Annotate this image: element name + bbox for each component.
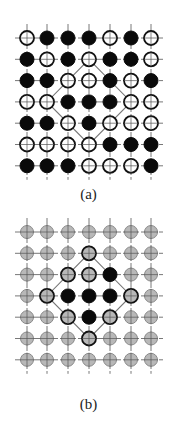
lattice-site-filled bbox=[144, 159, 158, 173]
lattice-site-filled bbox=[82, 310, 96, 324]
lattice-site-filled bbox=[20, 74, 34, 88]
panel-b-label: (b) bbox=[0, 396, 177, 413]
lattice-site-filled bbox=[40, 116, 54, 130]
lattice-site-filled bbox=[61, 31, 75, 45]
panel-a-label: (a) bbox=[0, 186, 177, 203]
lattice-site-filled bbox=[61, 289, 75, 303]
lattice-site-filled bbox=[103, 268, 117, 282]
lattice-site-filled bbox=[103, 138, 117, 152]
panel-b-lattice bbox=[15, 218, 163, 374]
lattice-site-filled bbox=[124, 31, 138, 45]
lattice-site-filled bbox=[144, 138, 158, 152]
lattice-site-filled bbox=[20, 52, 34, 66]
lattice-site-filled bbox=[20, 159, 34, 173]
lattice-site-filled bbox=[82, 116, 96, 130]
lattice-site-filled bbox=[61, 159, 75, 173]
lattice-site-filled bbox=[103, 52, 117, 66]
lattice-site-filled bbox=[40, 31, 54, 45]
lattice-site-filled bbox=[144, 74, 158, 88]
lattice-diagram bbox=[0, 0, 177, 425]
panel-a-lattice bbox=[15, 24, 163, 180]
lattice-site-filled bbox=[103, 74, 117, 88]
lattice-site-filled bbox=[103, 95, 117, 109]
lattice-site-filled bbox=[82, 95, 96, 109]
lattice-site-filled bbox=[40, 74, 54, 88]
lattice-site-filled bbox=[61, 52, 75, 66]
lattice-site-filled bbox=[103, 289, 117, 303]
lattice-site-filled bbox=[61, 95, 75, 109]
lattice-site-filled bbox=[82, 289, 96, 303]
lattice-site-filled bbox=[124, 138, 138, 152]
lattice-site-filled bbox=[40, 159, 54, 173]
lattice-site-filled bbox=[124, 52, 138, 66]
lattice-site-filled bbox=[20, 116, 34, 130]
lattice-site-filled bbox=[82, 31, 96, 45]
